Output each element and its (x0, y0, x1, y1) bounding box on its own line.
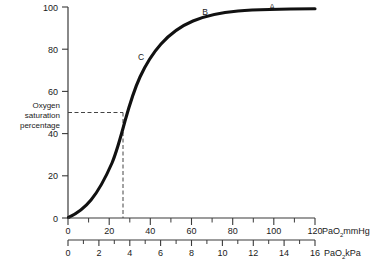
p50-guide (68, 113, 123, 219)
x-mmhg-label-80: 80 (228, 226, 238, 236)
x-kpa-label-0: 0 (65, 248, 70, 258)
x-kpa-label-14: 14 (279, 248, 289, 258)
x-kpa-label-16: 16 (310, 248, 320, 258)
oxygen-dissociation-chart: Oxygen saturation percentage 100 80 60 4… (0, 0, 382, 266)
chart-svg: Oxygen saturation percentage 100 80 60 4… (0, 0, 382, 266)
x-axis-mmhg-name: PaO2mmHg (322, 226, 370, 238)
y-axis-label: Oxygen saturation percentage (20, 101, 61, 130)
annotation-label-a: A (269, 2, 275, 12)
x-kpa-label-6: 6 (158, 248, 163, 258)
x-axis-kpa: 0 2 4 6 8 10 12 14 16 PaO2kPa (65, 240, 360, 260)
x-axis-kpa-name-text: PaO (324, 248, 342, 258)
y-axis-label-line-1: Oxygen (32, 101, 60, 110)
x-axis-kpa-name: PaO2kPa (324, 248, 361, 260)
dissociation-curve (69, 9, 316, 218)
x-axis-mmhg: 0 20 40 60 80 100 120 PaO2mmHg (65, 218, 369, 238)
y-tick-label-80: 80 (48, 45, 58, 55)
x-mmhg-label-60: 60 (186, 226, 196, 236)
y-tick-label-20: 20 (48, 171, 58, 181)
y-tick-label-0: 0 (53, 214, 58, 224)
annotation-label-b: B (202, 7, 208, 17)
y-axis-label-line-2: saturation (25, 111, 60, 120)
x-mmhg-label-20: 20 (104, 226, 114, 236)
x-kpa-label-2: 2 (96, 248, 101, 258)
x-kpa-label-10: 10 (217, 248, 227, 258)
x-kpa-label-4: 4 (127, 248, 132, 258)
x-kpa-label-12: 12 (248, 248, 258, 258)
x-mmhg-label-40: 40 (145, 226, 155, 236)
annotation-label-c: C (138, 52, 144, 62)
x-kpa-label-8: 8 (189, 248, 194, 258)
x-mmhg-label-100: 100 (266, 226, 281, 236)
x-mmhg-label-120: 120 (307, 226, 322, 236)
x-axis-mmhg-name-text: PaO (322, 226, 340, 236)
y-tick-label-40: 40 (48, 129, 58, 139)
y-tick-label-60: 60 (48, 87, 58, 97)
x-axis-mmhg-name-unit: mmHg (343, 226, 370, 236)
x-mmhg-label-0: 0 (65, 226, 70, 236)
y-tick-label-100: 100 (43, 3, 58, 13)
x-axis-kpa-name-unit: kPa (345, 248, 361, 258)
